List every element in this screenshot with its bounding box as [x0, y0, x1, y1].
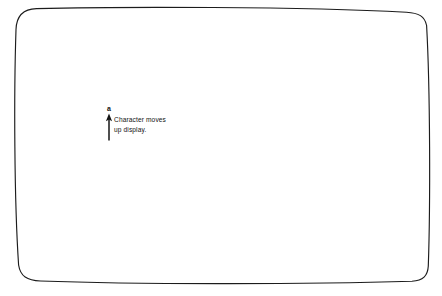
scroll-annotation-group: a Character moves up display.: [101, 104, 281, 148]
figure-root: a Character moves up display.: [0, 0, 442, 296]
annotation-caption-line-2: up display.: [114, 125, 264, 135]
crt-screen-outline: [0, 0, 442, 296]
annotation-caption-line-1: Character moves: [114, 115, 264, 125]
annotation-caption: Character moves up display.: [114, 115, 264, 134]
